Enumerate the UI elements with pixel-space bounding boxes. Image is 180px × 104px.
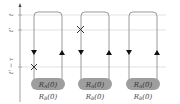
up-arrow-icon <box>154 50 160 55</box>
down-arrow-icon <box>126 50 132 55</box>
contour-1: RA(0) RB(0) <box>31 12 65 101</box>
contour-3: RA(0) RB(0) <box>126 12 160 101</box>
label-t-prime: t' <box>7 28 14 32</box>
ra-label: RA(0) <box>38 81 58 89</box>
up-arrow-icon <box>59 50 65 55</box>
up-arrow-icon <box>106 50 112 55</box>
ra-label: RA(0) <box>133 81 153 89</box>
label-t: t <box>7 13 14 16</box>
axis-arrow-icon <box>19 3 22 7</box>
rb-label: RB(0) <box>133 93 153 101</box>
label-t-prime-minus-tau: t' − τ <box>7 57 14 74</box>
rb-label: RB(0) <box>38 93 58 101</box>
down-arrow-icon <box>31 50 37 55</box>
contour-2: RA(0) RB(0) <box>77 12 112 101</box>
ra-label: RA(0) <box>85 81 105 89</box>
rb-label: RB(0) <box>85 93 105 101</box>
down-arrow-icon <box>78 50 84 55</box>
contour-diagram: t t' t' − τ RA(0) RB(0) RA(0) RB(0) RA(0… <box>0 0 180 104</box>
